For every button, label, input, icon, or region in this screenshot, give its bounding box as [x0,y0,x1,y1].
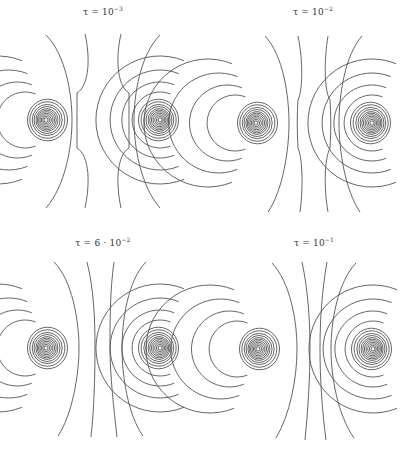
vortex-contour [28,327,68,369]
vortex-contour [238,102,278,144]
central-streamline [118,34,129,208]
outer-streamline [146,285,234,413]
outer-streamline [0,70,27,170]
outer-streamline [0,298,27,398]
vortex-contour [240,328,280,370]
vortex-contour [254,121,258,125]
outer-streamline [191,311,243,387]
vortex-contour [352,328,392,370]
central-streamline [297,36,302,212]
vortex-contour [371,347,375,351]
central-streamline [325,36,331,212]
central-streamline [265,36,289,212]
vortex-contour [28,99,68,141]
outer-streamline [308,59,396,187]
outer-streamline [171,299,240,399]
central-streamline [87,262,95,437]
vortex-contour [158,118,162,122]
contour-panel-tr [144,36,396,212]
central-streamline [110,262,117,437]
figure: τ = 10−3 τ = 10−2 τ = 6 · 10−2 τ = 10−1 [0,0,419,456]
central-streamline [77,34,88,208]
outer-streamline [189,85,241,161]
contour-panel-bl [0,262,184,437]
central-streamline [272,263,297,438]
vortex-contour [44,346,48,350]
contour-plots [0,0,419,456]
outer-streamline [309,285,397,413]
vortex-contour [158,346,162,350]
vortex-contour [256,347,260,351]
contour-panel-tl [0,34,184,208]
vortex-contour [351,102,391,144]
outer-streamline [0,284,22,412]
vortex-contour [44,118,48,122]
outer-streamline [0,56,22,184]
vortex-contour [370,121,374,125]
outer-streamline [169,73,238,173]
vortex-contour [139,99,179,141]
